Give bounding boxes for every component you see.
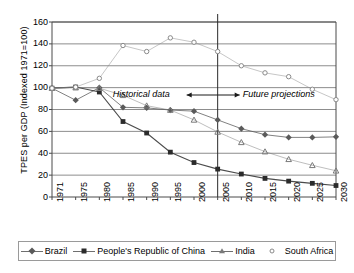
x-axis-tick: 2020 [293, 182, 302, 202]
data-point-brazil [73, 97, 79, 103]
data-point-people-s-republic-of-china [239, 172, 244, 177]
data-point-people-s-republic-of-china [192, 160, 197, 165]
legend-item-india[interactable]: India [208, 246, 258, 256]
y-axis-tick: 40 [26, 149, 48, 158]
data-point-south-africa [73, 85, 77, 89]
y-axis-tick: 160 [26, 18, 48, 27]
data-point-south-africa [263, 71, 267, 75]
data-point-people-s-republic-of-china [168, 150, 173, 155]
x-axis-tick: 2015 [269, 182, 278, 202]
arrowhead-future [235, 92, 240, 97]
x-axis-tick: 1980 [103, 182, 112, 202]
y-axis-tick: 60 [26, 127, 48, 136]
data-point-brazil [286, 134, 292, 140]
data-point-south-africa [334, 97, 338, 101]
y-axis-tick: 100 [26, 83, 48, 92]
data-point-people-s-republic-of-china [263, 176, 268, 181]
x-axis-tick: 1971 [56, 182, 65, 202]
diamond-marker-icon [21, 246, 43, 256]
data-point-people-s-republic-of-china [310, 181, 315, 186]
x-axis-tick: 1975 [80, 182, 89, 202]
series-line-people-s-republic-of-china [52, 87, 336, 185]
data-point-south-africa [239, 64, 243, 68]
legend-marker [219, 248, 225, 253]
legend-label: People's Republic of China [97, 246, 205, 256]
data-point-people-s-republic-of-china [215, 167, 220, 172]
chart-legend: BrazilPeople's Republic of ChinaIndiaSou… [18, 241, 336, 261]
x-axis-tick: 2030 [340, 182, 349, 202]
data-point-people-s-republic-of-china [334, 183, 339, 188]
y-axis-tick-labels: 020406080100120140160 [22, 0, 48, 210]
annotation-historical-data: Historical data [113, 89, 170, 99]
data-point-brazil [262, 132, 268, 138]
data-point-south-africa [50, 86, 54, 90]
x-axis-tick: 1990 [151, 182, 160, 202]
arrowhead-historical [187, 92, 192, 97]
x-axis-tick: 2000 [198, 182, 207, 202]
circle-marker-icon [261, 246, 283, 256]
y-axis-tick: 140 [26, 39, 48, 48]
legend-label: Brazil [45, 246, 68, 256]
legend-marker [28, 247, 35, 254]
x-axis-tick: 2005 [222, 182, 231, 202]
y-axis-tick: 0 [26, 193, 48, 202]
triangle-marker-icon [211, 246, 233, 256]
chart-container: TPES per GDP (Indexed 1971=100) 02040608… [0, 0, 354, 273]
data-point-south-africa [168, 36, 172, 40]
legend-item-south-africa[interactable]: South Africa [258, 246, 337, 256]
square-marker-icon [73, 246, 95, 256]
y-axis-tick: 120 [26, 61, 48, 70]
y-axis-tick: 80 [26, 105, 48, 114]
legend-item-brazil[interactable]: Brazil [18, 246, 71, 256]
data-point-brazil [333, 134, 339, 140]
y-axis-tick: 20 [26, 171, 48, 180]
annotation-future-projections: Future projections [243, 89, 315, 99]
series-line-india [52, 88, 336, 171]
plot-area [0, 0, 354, 273]
x-axis-tick: 1985 [127, 182, 136, 202]
x-axis-tick: 2025 [316, 182, 325, 202]
data-point-south-africa [215, 49, 219, 53]
data-point-brazil [191, 108, 197, 114]
data-point-people-s-republic-of-china [121, 119, 126, 124]
legend-marker [269, 249, 274, 254]
data-point-brazil [215, 117, 221, 123]
x-axis-tick: 2010 [245, 182, 254, 202]
data-point-people-s-republic-of-china [144, 131, 149, 136]
data-point-people-s-republic-of-china [286, 179, 291, 184]
data-point-south-africa [192, 40, 196, 44]
data-point-brazil [309, 134, 315, 140]
legend-marker [82, 249, 87, 254]
legend-label: India [235, 246, 255, 256]
data-point-south-africa [121, 43, 125, 47]
x-axis-tick: 1995 [174, 182, 183, 202]
data-point-south-africa [144, 49, 148, 53]
data-point-brazil [238, 126, 244, 132]
data-point-south-africa [97, 76, 101, 80]
data-point-south-africa [286, 74, 290, 78]
legend-item-people-s-republic-of-china[interactable]: People's Republic of China [70, 246, 208, 256]
legend-label: South Africa [285, 246, 334, 256]
